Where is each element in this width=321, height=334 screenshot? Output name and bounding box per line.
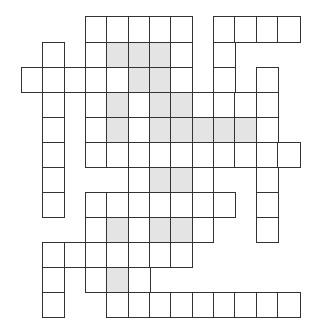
grid-cell-r9-c6[interactable]: [149, 242, 172, 269]
grid-cell-r2-c6[interactable]: [149, 67, 172, 94]
grid-cell-r4-c3[interactable]: [85, 117, 108, 144]
grid-cell-r11-c10[interactable]: [234, 292, 257, 319]
grid-cell-r2-c5[interactable]: [128, 67, 151, 94]
grid-cell-r3-c1[interactable]: [42, 92, 65, 119]
grid-cell-r6-c1[interactable]: [42, 167, 65, 194]
grid-cell-r1-c7[interactable]: [170, 42, 193, 69]
grid-cell-r10-c5[interactable]: [128, 267, 151, 294]
grid-cell-r8-c6[interactable]: [149, 217, 172, 244]
grid-cell-r8-c5[interactable]: [128, 217, 151, 244]
grid-cell-r2-c2[interactable]: [64, 67, 87, 94]
grid-cell-r0-c5[interactable]: [128, 16, 151, 43]
grid-cell-r11-c8[interactable]: [192, 292, 215, 319]
grid-cell-r7-c9[interactable]: [213, 192, 236, 219]
grid-cell-r5-c1[interactable]: [42, 142, 65, 169]
grid-cell-r10-c1[interactable]: [42, 267, 65, 294]
grid-cell-r5-c3[interactable]: [85, 142, 108, 169]
grid-cell-r1-c6[interactable]: [149, 42, 172, 69]
grid-cell-r7-c7[interactable]: [170, 192, 193, 219]
grid-cell-r3-c8[interactable]: [192, 92, 215, 119]
grid-cell-r6-c6[interactable]: [149, 167, 172, 194]
grid-cell-r7-c8[interactable]: [192, 192, 215, 219]
grid-cell-r5-c5[interactable]: [128, 142, 151, 169]
grid-cell-r11-c9[interactable]: [213, 292, 236, 319]
grid-cell-r4-c9[interactable]: [213, 117, 236, 144]
grid-cell-r6-c11[interactable]: [256, 167, 279, 194]
grid-cell-r7-c6[interactable]: [149, 192, 172, 219]
grid-cell-r9-c3[interactable]: [85, 242, 108, 269]
grid-cell-r8-c7[interactable]: [170, 217, 193, 244]
grid-cell-r0-c12[interactable]: [277, 16, 301, 43]
grid-cell-r2-c4[interactable]: [106, 67, 129, 94]
grid-cell-r1-c9[interactable]: [213, 42, 236, 69]
grid-cell-r7-c1[interactable]: [42, 192, 65, 219]
grid-cell-r6-c5[interactable]: [128, 167, 151, 194]
grid-cell-r7-c11[interactable]: [256, 192, 279, 219]
grid-cell-r11-c11[interactable]: [256, 292, 279, 319]
grid-cell-r11-c1[interactable]: [42, 292, 65, 319]
grid-cell-r0-c4[interactable]: [106, 16, 129, 43]
grid-cell-r3-c7[interactable]: [170, 92, 193, 119]
grid-cell-r9-c2[interactable]: [64, 242, 87, 269]
grid-cell-r0-c11[interactable]: [256, 16, 279, 43]
grid-cell-r9-c7[interactable]: [170, 242, 193, 269]
grid-cell-r0-c10[interactable]: [234, 16, 257, 43]
grid-cell-r2-c3[interactable]: [85, 67, 108, 94]
grid-cell-r1-c4[interactable]: [106, 42, 129, 69]
grid-cell-r11-c12[interactable]: [277, 292, 301, 319]
grid-cell-r8-c4[interactable]: [106, 217, 129, 244]
grid-cell-r7-c3[interactable]: [85, 192, 108, 219]
grid-cell-r11-c4[interactable]: [106, 292, 129, 319]
grid-cell-r1-c5[interactable]: [128, 42, 151, 69]
grid-cell-r11-c6[interactable]: [149, 292, 172, 319]
grid-cell-r1-c3[interactable]: [85, 42, 108, 69]
grid-cell-r8-c8[interactable]: [192, 217, 215, 244]
grid-cell-r5-c10[interactable]: [234, 142, 257, 169]
grid-cell-r9-c4[interactable]: [106, 242, 129, 269]
grid-cell-r4-c1[interactable]: [42, 117, 65, 144]
grid-cell-r11-c5[interactable]: [128, 292, 151, 319]
grid-cell-r7-c5[interactable]: [128, 192, 151, 219]
grid-cell-r3-c4[interactable]: [106, 92, 129, 119]
grid-cell-r7-c4[interactable]: [106, 192, 129, 219]
grid-cell-r4-c6[interactable]: [149, 117, 172, 144]
grid-cell-r3-c5[interactable]: [128, 92, 151, 119]
grid-cell-r5-c4[interactable]: [106, 142, 129, 169]
grid-cell-r3-c6[interactable]: [149, 92, 172, 119]
grid-cell-r6-c7[interactable]: [170, 167, 193, 194]
grid-cell-r6-c8[interactable]: [192, 167, 215, 194]
grid-cell-r4-c10[interactable]: [234, 117, 257, 144]
grid-cell-r5-c12[interactable]: [277, 142, 301, 169]
grid-cell-r3-c11[interactable]: [256, 92, 279, 119]
grid-cell-r2-c11[interactable]: [256, 67, 279, 94]
grid-cell-r4-c8[interactable]: [192, 117, 215, 144]
grid-cell-r0-c7[interactable]: [170, 16, 193, 43]
grid-cell-r2-c9[interactable]: [213, 67, 236, 94]
grid-cell-r4-c7[interactable]: [170, 117, 193, 144]
grid-cell-r8-c11[interactable]: [256, 217, 279, 244]
grid-cell-r2-c1[interactable]: [42, 67, 65, 94]
grid-cell-r5-c11[interactable]: [256, 142, 279, 169]
grid-cell-r11-c7[interactable]: [170, 292, 193, 319]
grid-cell-r8-c3[interactable]: [85, 217, 108, 244]
grid-cell-r5-c8[interactable]: [192, 142, 215, 169]
grid-cell-r0-c3[interactable]: [85, 16, 108, 43]
grid-cell-r9-c1[interactable]: [42, 242, 65, 269]
grid-cell-r2-c7[interactable]: [170, 67, 193, 94]
grid-cell-r0-c9[interactable]: [213, 16, 236, 43]
grid-cell-r0-c6[interactable]: [149, 16, 172, 43]
grid-cell-r1-c1[interactable]: [42, 42, 65, 69]
grid-cell-r2-c0[interactable]: [21, 67, 44, 94]
grid-cell-r3-c3[interactable]: [85, 92, 108, 119]
grid-cell-r3-c10[interactable]: [234, 92, 257, 119]
grid-cell-r3-c9[interactable]: [213, 92, 236, 119]
grid-cell-r4-c5[interactable]: [128, 117, 151, 144]
grid-cell-r9-c5[interactable]: [128, 242, 151, 269]
grid-cell-r4-c4[interactable]: [106, 117, 129, 144]
grid-cell-r10-c3[interactable]: [85, 267, 108, 294]
grid-cell-r5-c7[interactable]: [170, 142, 193, 169]
grid-cell-r10-c4[interactable]: [106, 267, 129, 294]
grid-cell-r5-c6[interactable]: [149, 142, 172, 169]
grid-cell-r4-c11[interactable]: [256, 117, 279, 144]
grid-cell-r5-c9[interactable]: [213, 142, 236, 169]
